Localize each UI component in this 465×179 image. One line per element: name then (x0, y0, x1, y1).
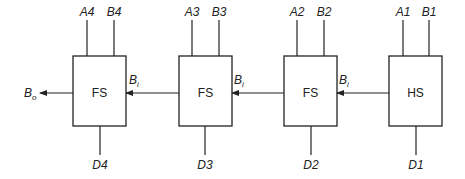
fs4-b-label: B4 (107, 5, 122, 19)
fs2-d-label: D2 (303, 158, 319, 172)
fs2-a-label: A2 (289, 5, 305, 19)
hs1-d-label: D1 (408, 158, 423, 172)
borrow-out-label: Bo (24, 86, 37, 102)
fs2-b-label: B2 (317, 5, 332, 19)
block-fs2: FS A2 B2 D2 Bi (284, 5, 349, 172)
block-hs1: HS A1 B1 D1 (389, 5, 442, 172)
fs2-label: FS (303, 86, 318, 100)
block-fs3: FS A3 B3 D3 Bi (179, 5, 244, 172)
fs3-b-label: B3 (212, 5, 227, 19)
fs4-borrow-in-label: Bi (129, 73, 139, 89)
fs3-borrow-in-label: Bi (234, 73, 244, 89)
fs4-label: FS (92, 86, 107, 100)
fs3-a-label: A3 (184, 5, 200, 19)
fs4-a-label: A4 (79, 5, 95, 19)
hs1-b-label: B1 (422, 5, 437, 19)
fs2-borrow-in-label: Bi (339, 73, 349, 89)
fs3-d-label: D3 (197, 158, 213, 172)
fs4-d-label: D4 (92, 158, 108, 172)
subtractor-diagram: FS A4 B4 D4 Bi Bo FS A3 B3 D3 Bi FS A2 B… (0, 0, 465, 179)
hs1-label: HS (407, 86, 424, 100)
hs1-a-label: A1 (395, 5, 411, 19)
block-fs4: FS A4 B4 D4 Bi (73, 5, 139, 172)
fs3-label: FS (198, 86, 213, 100)
